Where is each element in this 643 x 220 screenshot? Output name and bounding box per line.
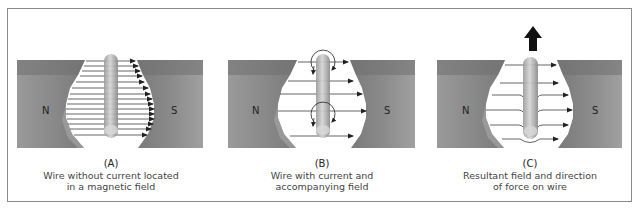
south-pole-label: S: [384, 105, 390, 116]
caption-b: (B) Wire with current and accompanying f…: [222, 158, 422, 192]
north-magnet: [228, 60, 297, 148]
caption-a-line2: in a magnetic field: [11, 181, 211, 192]
north-magnet: [437, 60, 505, 148]
south-pole-label: S: [171, 105, 177, 116]
caption-b-line2: accompanying field: [222, 181, 422, 192]
caption-b-line1: Wire with current and: [222, 170, 422, 181]
south-pole-label: S: [592, 105, 598, 116]
panel-letter-a: (A): [11, 158, 211, 169]
south-magnet: [557, 60, 622, 148]
panel-a: N S: [17, 54, 203, 148]
wire: [316, 54, 330, 138]
wire: [523, 57, 538, 139]
caption-a-line1: Wire without current located: [11, 170, 211, 181]
caption-a: (A) Wire without current located in a ma…: [11, 158, 211, 192]
force-arrow-up-icon: [524, 26, 542, 51]
north-pole-label: N: [462, 105, 469, 116]
panel-letter-b: (B): [222, 158, 422, 169]
caption-c: (C) Resultant field and direction of for…: [430, 158, 630, 192]
north-pole-label: N: [252, 105, 259, 116]
panel-letter-c: (C): [430, 158, 630, 169]
south-magnet: [350, 60, 415, 148]
north-pole-label: N: [42, 105, 49, 116]
panel-b: N S: [228, 50, 415, 148]
wire: [104, 54, 118, 138]
caption-c-line2: of force on wire: [430, 181, 630, 192]
panel-c: N S: [437, 26, 622, 148]
caption-c-line1: Resultant field and direction: [430, 170, 630, 181]
